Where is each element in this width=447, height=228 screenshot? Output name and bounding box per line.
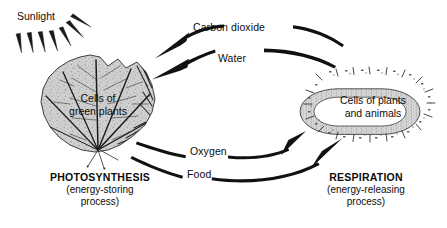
- sunlight-label: Sunlight: [17, 11, 55, 23]
- leaf-label-line1: Cells of: [36, 92, 160, 105]
- flow-label-food: Food: [187, 169, 211, 181]
- diagram-canvas: Sunlight Cells of green plants Cells of …: [0, 0, 447, 228]
- caption-photosynthesis: PHOTOSYNTHESIS (energy-storing process): [13, 171, 187, 208]
- flow-label-oxygen: Oxygen: [190, 146, 227, 158]
- caption-respiration-title: RESPIRATION: [286, 171, 446, 184]
- flow-label-water: Water: [218, 53, 246, 65]
- cell-ring-label-line2: and animals: [311, 107, 435, 120]
- caption-respiration-sub2: process): [286, 196, 446, 208]
- caption-photosynthesis-title: PHOTOSYNTHESIS: [13, 171, 187, 184]
- flow-label-carbon-dioxide: Carbon dioxide: [193, 22, 265, 34]
- cell-ring-label: Cells of plants and animals: [311, 94, 435, 120]
- caption-respiration-sub1: (energy-releasing: [286, 184, 446, 196]
- caption-photosynthesis-sub2: process): [13, 196, 187, 208]
- caption-respiration: RESPIRATION (energy-releasing process): [286, 171, 446, 208]
- caption-photosynthesis-sub1: (energy-storing: [13, 184, 187, 196]
- leaf-label-line2: green plants: [36, 105, 160, 118]
- cell-ring-label-line1: Cells of plants: [311, 94, 435, 107]
- leaf-label: Cells of green plants: [36, 92, 160, 118]
